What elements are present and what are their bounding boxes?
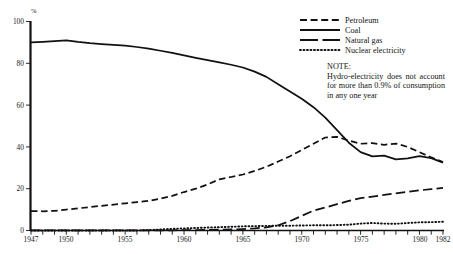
legend-swatch-natural-gas xyxy=(299,35,341,45)
y-tick-label: 60 xyxy=(17,101,25,110)
legend-item-natural-gas: Natural gas xyxy=(299,35,445,45)
legend-item-nuclear-electricity: Nuclear electricity xyxy=(299,45,445,55)
x-tick-label: 1947 xyxy=(24,235,39,244)
note-title: NOTE: xyxy=(327,62,445,72)
x-tick-label: 1950 xyxy=(59,235,74,244)
x-tick-label: 1980 xyxy=(413,235,428,244)
y-tick-label: 40 xyxy=(17,143,25,152)
legend-label-coal: Coal xyxy=(341,26,360,35)
y-tick-label: 80 xyxy=(17,59,25,68)
y-tick-label: 100 xyxy=(13,17,24,26)
note-body: Hydro-electricity does not account for m… xyxy=(327,72,445,101)
y-axis-unit-label: % xyxy=(31,7,37,14)
chart-note: NOTE: Hydro-electricity does not account… xyxy=(327,62,445,100)
legend-swatch-petroleum xyxy=(299,15,341,25)
legend-label-natural-gas: Natural gas xyxy=(341,36,383,45)
x-tick-label: 1955 xyxy=(118,235,133,244)
chart-legend: Petroleum Coal Natural gas Nuclear elect… xyxy=(299,15,445,55)
x-tick-label: 1970 xyxy=(295,235,310,244)
x-tick-label: 1975 xyxy=(354,235,369,244)
y-tick-label: 20 xyxy=(17,184,25,193)
x-tick-label: 1960 xyxy=(177,235,192,244)
x-tick-label: 1965 xyxy=(236,235,251,244)
y-axis-tick-labels: 0 20 40 60 80 100 xyxy=(13,17,24,235)
legend-item-petroleum: Petroleum xyxy=(299,15,445,25)
legend-swatch-nuclear-electricity xyxy=(299,45,341,55)
x-axis-tick-labels: 1947 1950 1955 1960 1965 1970 1975 1980 … xyxy=(24,235,451,244)
legend-item-coal: Coal xyxy=(299,25,445,35)
legend-swatch-coal xyxy=(299,25,341,35)
legend-label-petroleum: Petroleum xyxy=(341,16,379,25)
series-line-petroleum xyxy=(31,137,443,211)
chart-page: 0 20 40 60 80 100 % 1947 1950 1955 1960 … xyxy=(0,0,453,254)
legend-label-nuclear-electricity: Nuclear electricity xyxy=(341,46,406,55)
x-tick-label: 1982 xyxy=(436,235,451,244)
